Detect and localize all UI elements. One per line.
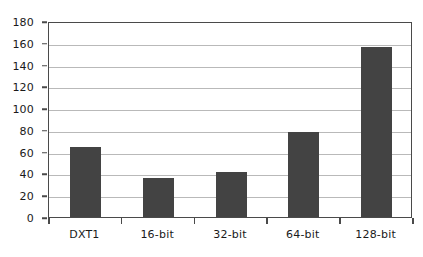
y-tick-label: 100 [12, 103, 34, 116]
y-tick-mark [42, 65, 47, 67]
bar [143, 178, 174, 217]
y-tick-mark [42, 108, 47, 110]
y-tick-label: 140 [12, 59, 34, 72]
bar [288, 132, 319, 217]
x-tick-label: DXT1 [69, 228, 99, 241]
y-tick-label: 0 [27, 212, 34, 225]
y-tick-mark [42, 217, 47, 219]
y-tick-label: 180 [12, 16, 34, 29]
x-tick-mark [194, 218, 196, 224]
y-tick-label: 160 [12, 37, 34, 50]
y-tick-mark [42, 174, 47, 176]
x-axis-labels: DXT116-bit32-bit64-bit128-bit [48, 228, 412, 248]
x-tick-mark [266, 218, 268, 224]
y-tick-label: 80 [20, 124, 34, 137]
y-tick-mark [42, 43, 47, 45]
y-tick-mark [42, 152, 47, 154]
x-tick-mark [121, 218, 123, 224]
y-tick-mark [42, 195, 47, 197]
y-tick-label: 40 [20, 168, 34, 181]
bar [361, 47, 392, 217]
plot-area [48, 22, 412, 218]
bars-layer [49, 23, 411, 217]
x-tick-mark [339, 218, 341, 224]
y-tick-label: 120 [12, 81, 34, 94]
x-tick-label: 16-bit [140, 228, 174, 241]
x-tick-label: 128-bit [355, 228, 396, 241]
y-axis: 020406080100120140160180 [0, 0, 42, 257]
y-tick-label: 20 [20, 190, 34, 203]
x-tick-label: 32-bit [213, 228, 247, 241]
y-tick-mark [42, 87, 47, 89]
x-tick-label: 64-bit [286, 228, 320, 241]
y-tick-mark [42, 130, 47, 132]
y-tick-mark [42, 21, 47, 23]
x-axis-ticks [48, 218, 412, 224]
bar [70, 147, 101, 217]
bar-chart: 020406080100120140160180 DXT116-bit32-bi… [0, 0, 423, 257]
bar [216, 172, 247, 217]
x-tick-mark [48, 218, 50, 224]
x-tick-mark [412, 218, 414, 224]
y-tick-label: 60 [20, 146, 34, 159]
